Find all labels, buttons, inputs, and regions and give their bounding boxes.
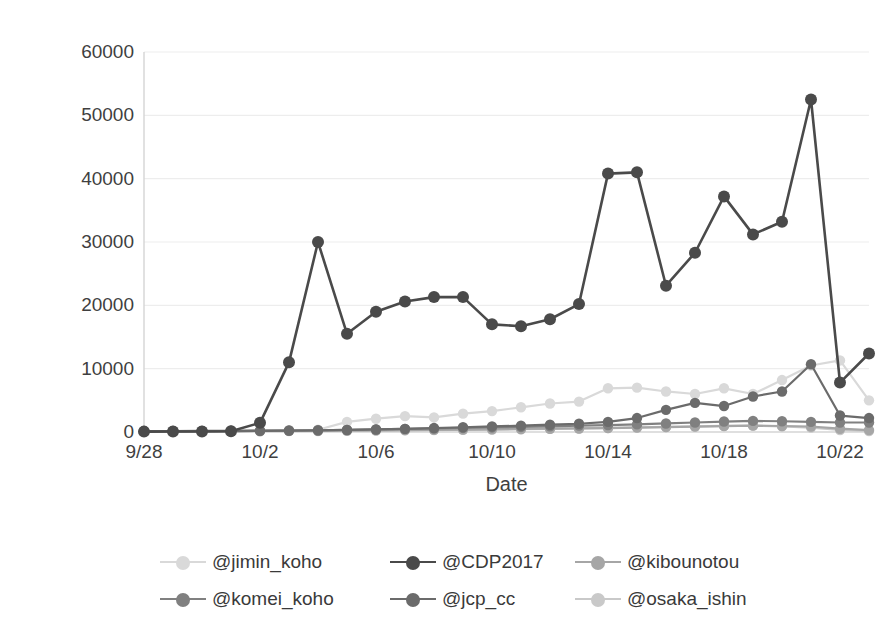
data-point xyxy=(777,386,787,396)
data-point xyxy=(284,425,294,435)
legend-item-osaka_ishin[interactable]: @osaka_ishin xyxy=(575,589,775,608)
data-point xyxy=(777,416,787,426)
data-point xyxy=(487,406,497,416)
data-point xyxy=(544,313,556,325)
legend-item-kibounotou[interactable]: @kibounotou xyxy=(575,552,775,571)
data-point xyxy=(225,425,237,437)
series-jimin_koho xyxy=(139,355,874,436)
series-line xyxy=(144,100,869,432)
data-point xyxy=(545,398,555,408)
legend-label: @CDP2017 xyxy=(442,552,544,571)
data-point xyxy=(574,396,584,406)
legend-marker-icon xyxy=(390,591,436,607)
data-point xyxy=(573,298,585,310)
data-point xyxy=(371,424,381,434)
legend-marker-icon xyxy=(575,554,621,570)
data-point xyxy=(400,411,410,421)
data-point xyxy=(428,291,440,303)
data-point xyxy=(196,425,208,437)
data-point xyxy=(602,168,614,180)
data-point xyxy=(313,425,323,435)
data-point xyxy=(515,320,527,332)
legend-item-komei_koho[interactable]: @komei_koho xyxy=(160,589,390,608)
legend-marker-icon xyxy=(575,591,621,607)
data-point xyxy=(834,377,846,389)
data-point xyxy=(690,389,700,399)
data-point xyxy=(371,414,381,424)
data-point xyxy=(342,425,352,435)
data-point xyxy=(777,375,787,385)
data-point xyxy=(516,420,526,430)
series-CDP2017 xyxy=(138,94,875,438)
data-point xyxy=(458,422,468,432)
gridlines xyxy=(144,52,869,369)
data-point xyxy=(864,413,874,423)
legend-item-jimin_koho[interactable]: @jimin_koho xyxy=(160,552,390,571)
data-point xyxy=(864,395,874,405)
legend-item-CDP2017[interactable]: @CDP2017 xyxy=(390,552,575,571)
data-point xyxy=(457,291,469,303)
data-point xyxy=(429,423,439,433)
data-point xyxy=(312,236,324,248)
data-point xyxy=(631,166,643,178)
data-point xyxy=(806,417,816,427)
data-point xyxy=(806,359,816,369)
data-point xyxy=(661,386,671,396)
data-point xyxy=(603,417,613,427)
legend-label: @komei_koho xyxy=(212,589,334,608)
data-point xyxy=(545,420,555,430)
data-point xyxy=(458,408,468,418)
data-point xyxy=(863,347,875,359)
data-point xyxy=(429,412,439,422)
data-point xyxy=(632,413,642,423)
data-point xyxy=(167,426,179,438)
data-point xyxy=(283,356,295,368)
legend-label: @osaka_ishin xyxy=(627,589,747,608)
data-point xyxy=(341,328,353,340)
data-point xyxy=(719,401,729,411)
data-point xyxy=(719,383,729,393)
data-point xyxy=(690,417,700,427)
data-point xyxy=(486,318,498,330)
legend-marker-icon xyxy=(160,554,206,570)
legend-label: @jimin_koho xyxy=(212,552,322,571)
data-point xyxy=(370,306,382,318)
data-point xyxy=(603,383,613,393)
data-point xyxy=(399,296,411,308)
legend-marker-icon xyxy=(390,554,436,570)
data-point xyxy=(138,426,150,438)
series-kibounotou xyxy=(139,420,874,436)
data-point xyxy=(718,190,730,202)
legend-item-jcp_cc[interactable]: @jcp_cc xyxy=(390,589,575,608)
data-point xyxy=(661,418,671,428)
data-point xyxy=(487,421,497,431)
data-point xyxy=(835,410,845,420)
data-point xyxy=(776,216,788,228)
data-point xyxy=(516,402,526,412)
data-point xyxy=(805,94,817,106)
data-point xyxy=(660,280,672,292)
data-point xyxy=(400,424,410,434)
data-point xyxy=(689,247,701,259)
data-point xyxy=(747,228,759,240)
legend-label: @kibounotou xyxy=(627,552,739,571)
legend-label: @jcp_cc xyxy=(442,589,515,608)
data-series-layer xyxy=(138,94,875,438)
data-point xyxy=(748,391,758,401)
data-point xyxy=(719,416,729,426)
chart-legend: @jimin_koho@CDP2017@kibounotou@komei_koh… xyxy=(160,543,760,617)
retweet-line-chart: The number of retweeted 0100002000030000… xyxy=(0,0,885,644)
data-point xyxy=(748,416,758,426)
x-axis-title: Date xyxy=(144,473,869,496)
data-point xyxy=(661,405,671,415)
data-point xyxy=(690,398,700,408)
legend-marker-icon xyxy=(160,591,206,607)
data-point xyxy=(254,417,266,429)
data-point xyxy=(574,419,584,429)
data-point xyxy=(632,382,642,392)
